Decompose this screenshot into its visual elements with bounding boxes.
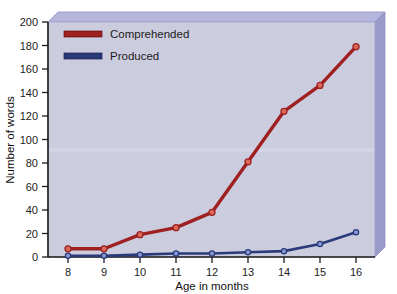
x-tick-label-15: 15 (314, 266, 326, 278)
data-point (137, 232, 143, 238)
y-axis-title: Number of words (4, 96, 16, 184)
y-tick-label-60: 60 (26, 181, 38, 193)
data-point (137, 252, 142, 257)
data-point (281, 249, 286, 254)
y-tick-label-140: 140 (20, 87, 38, 99)
x-tick-label-10: 10 (134, 266, 146, 278)
x-tick-label-9: 9 (101, 266, 107, 278)
y-tick-label-180: 180 (20, 40, 38, 52)
data-point (209, 209, 215, 215)
y-tick-label-80: 80 (26, 157, 38, 169)
x-tick-label-8: 8 (65, 266, 71, 278)
data-point (353, 44, 359, 50)
data-point (173, 251, 178, 256)
chart-canvas: 0 20 40 60 80 100 120 140 160 180 200 (0, 0, 397, 294)
x-tick-label-16: 16 (350, 266, 362, 278)
y-tick-label-160: 160 (20, 63, 38, 75)
y-axis-ticks: 0 20 40 60 80 100 120 140 160 180 200 (20, 16, 48, 263)
data-point (65, 253, 70, 258)
x-tick-label-13: 13 (242, 266, 254, 278)
plot-bevel-top (48, 12, 385, 22)
y-tick-label-20: 20 (26, 228, 38, 240)
legend-label-produced: Produced (110, 50, 159, 62)
data-point (173, 225, 179, 231)
x-tick-label-11: 11 (170, 266, 181, 278)
line-chart: 0 20 40 60 80 100 120 140 160 180 200 (0, 0, 397, 294)
data-point (245, 159, 251, 165)
y-tick-label-100: 100 (20, 134, 38, 146)
x-tick-label-12: 12 (206, 266, 218, 278)
y-tick-label-120: 120 (20, 110, 38, 122)
data-point (245, 250, 250, 255)
data-point (101, 253, 106, 258)
legend-swatch-comprehended (64, 31, 102, 37)
data-point (65, 246, 71, 252)
data-point (317, 241, 322, 246)
legend-swatch-produced (64, 53, 102, 59)
x-axis-title: Age in months (175, 280, 249, 292)
x-tick-label-14: 14 (278, 266, 290, 278)
data-point (353, 230, 358, 235)
y-tick-label-200: 200 (20, 16, 38, 28)
data-point (209, 251, 214, 256)
data-point (317, 82, 323, 88)
plot-bevel-right (375, 12, 385, 257)
plot-light-streak (49, 148, 374, 152)
y-tick-label-0: 0 (32, 251, 38, 263)
x-axis-ticks: 8 9 10 11 12 13 14 15 16 (65, 257, 362, 278)
data-point (281, 108, 287, 114)
y-tick-label-40: 40 (26, 204, 38, 216)
legend-label-comprehended: Comprehended (110, 28, 189, 40)
data-point (101, 246, 107, 252)
